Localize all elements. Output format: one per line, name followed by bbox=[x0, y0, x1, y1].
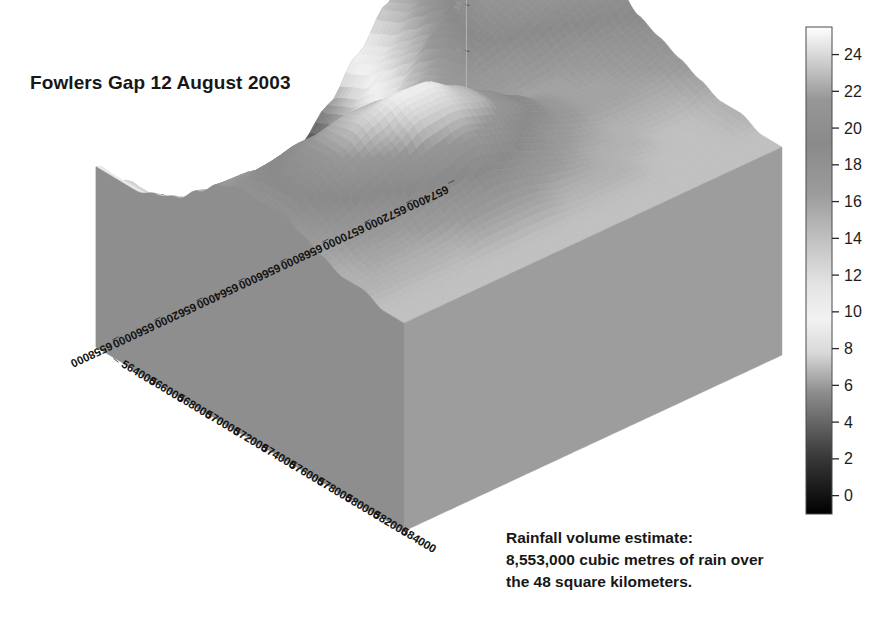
colorbar-tick-label: 22 bbox=[844, 83, 862, 100]
colorbar: 024681012141618202224 bbox=[798, 18, 887, 538]
colorbar-tick-label: 18 bbox=[844, 156, 862, 173]
colorbar-tick-label: 0 bbox=[844, 487, 853, 504]
colorbar-tick-label: 20 bbox=[844, 120, 862, 137]
y-axis-tick-label: 6558000 bbox=[69, 340, 115, 370]
caption-line-1: Rainfall volume estimate: bbox=[506, 527, 764, 549]
colorbar-tick-label: 4 bbox=[844, 414, 853, 431]
colorbar-tick-label: 8 bbox=[844, 340, 853, 357]
x-axis-tick-label: 584000 bbox=[399, 525, 438, 555]
colorbar-tick-label: 6 bbox=[844, 377, 853, 394]
caption-line-2: 8,553,000 cubic metres of rain over bbox=[506, 549, 764, 571]
rainfall-caption: Rainfall volume estimate: 8,553,000 cubi… bbox=[506, 527, 764, 593]
page-title: Fowlers Gap 12 August 2003 bbox=[30, 72, 291, 94]
colorbar-tick-label: 12 bbox=[844, 267, 862, 284]
colorbar-tick-label: 16 bbox=[844, 193, 862, 210]
caption-line-3: the 48 square kilometers. bbox=[506, 571, 764, 593]
colorbar-tick-label: 14 bbox=[844, 230, 862, 247]
colorbar-ticks: 024681012141618202224 bbox=[832, 46, 862, 504]
colorbar-gradient bbox=[806, 27, 832, 514]
colorbar-tick-label: 2 bbox=[844, 450, 853, 467]
colorbar-tick-label: 24 bbox=[844, 46, 862, 63]
figure-root: 5640005660005680005700005720005740005760… bbox=[0, 0, 887, 621]
colorbar-tick-label: 10 bbox=[844, 303, 862, 320]
